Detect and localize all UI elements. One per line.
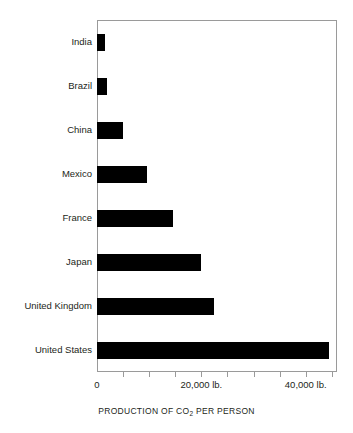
x-tick-15000 xyxy=(175,372,176,377)
x-tick-45000 xyxy=(332,372,333,377)
x-tick-20000 xyxy=(201,372,202,377)
x-tick-5000 xyxy=(123,372,124,377)
bar-united-kingdom xyxy=(97,298,214,315)
y-axis-label-united-kingdom: United Kingdom xyxy=(0,301,92,311)
x-tick-40000 xyxy=(306,372,307,377)
y-axis-labels: IndiaBrazilChinaMexicoFranceJapanUnited … xyxy=(0,20,92,372)
y-axis-label-united-states: United States xyxy=(0,345,92,355)
bar-india xyxy=(97,34,105,51)
bar-united-states xyxy=(97,342,329,359)
bar-china xyxy=(97,122,123,139)
x-axis-ticks xyxy=(97,372,337,377)
y-axis-label-mexico: Mexico xyxy=(0,169,92,179)
co2-production-bar-chart: IndiaBrazilChinaMexicoFranceJapanUnited … xyxy=(0,0,353,433)
bars-layer xyxy=(97,20,337,372)
x-tick-label-40000: 40,000 lb. xyxy=(285,379,327,391)
bar-mexico xyxy=(97,166,147,183)
x-tick-label-0: 0 xyxy=(94,379,99,391)
y-axis-label-brazil: Brazil xyxy=(0,81,92,91)
x-axis-title-rest: PER PERSON xyxy=(193,406,254,416)
x-axis-title-subscript: 2 xyxy=(189,410,193,417)
x-axis-title-main: PRODUCTION OF CO xyxy=(98,406,189,416)
x-tick-35000 xyxy=(280,372,281,377)
bar-japan xyxy=(97,254,201,271)
x-tick-10000 xyxy=(149,372,150,377)
x-tick-30000 xyxy=(254,372,255,377)
x-tick-label-20000: 20,000 lb. xyxy=(180,379,222,391)
y-axis-label-india: India xyxy=(0,37,92,47)
y-axis-label-china: China xyxy=(0,125,92,135)
x-axis-tick-labels: 020,000 lb.40,000 lb. xyxy=(0,379,353,393)
x-axis-title: PRODUCTION OF CO2 PER PERSON xyxy=(0,406,353,416)
bar-brazil xyxy=(97,78,107,95)
x-tick-25000 xyxy=(227,372,228,377)
bar-france xyxy=(97,210,173,227)
y-axis-label-france: France xyxy=(0,213,92,223)
y-axis-label-japan: Japan xyxy=(0,257,92,267)
